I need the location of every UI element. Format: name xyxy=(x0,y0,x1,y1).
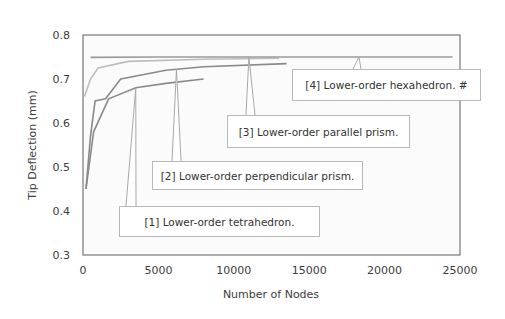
callout-tetrahedron: [1] Lower-order tetrahedron. xyxy=(119,206,320,237)
y-tick-label: 0.5 xyxy=(53,161,71,174)
y-axis-label: Tip Deflection (mm) xyxy=(26,90,39,200)
y-tick-label: 0.6 xyxy=(53,117,71,130)
y-tick-label: 0.7 xyxy=(53,73,71,86)
x-tick-label: 5000 xyxy=(144,264,172,277)
x-axis-label: Number of Nodes xyxy=(223,288,319,301)
y-tick-label: 0.3 xyxy=(53,249,71,262)
y-tick-label: 0.8 xyxy=(53,29,71,42)
x-tick-label: 20000 xyxy=(367,264,402,277)
x-tick-label: 10000 xyxy=(216,264,251,277)
callout-parallel-prism: [3] Lower-order parallel prism. xyxy=(227,115,410,148)
line-chart: 05000100001500020000250000.30.40.50.60.7… xyxy=(0,0,505,319)
y-tick-label: 0.4 xyxy=(53,205,71,218)
x-tick-label: 25000 xyxy=(443,264,478,277)
x-tick-label: 0 xyxy=(80,264,87,277)
x-tick-label: 15000 xyxy=(292,264,327,277)
callout-perpendicular-prism: [2] Lower-order perpendicular prism. xyxy=(152,161,363,190)
callout-hexahedron: [4] Lower-order hexahedron. # xyxy=(292,69,481,101)
